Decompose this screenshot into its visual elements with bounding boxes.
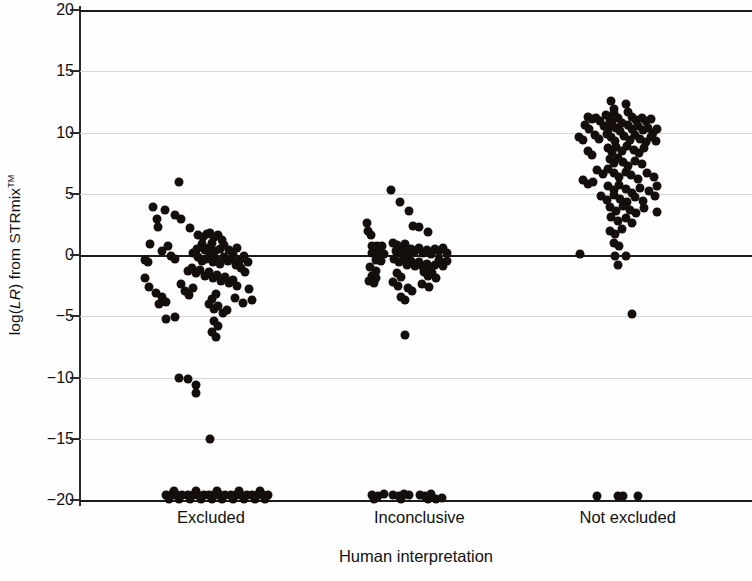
data-point bbox=[239, 298, 248, 307]
x-axis-tick-labels: ExcludedInconclusiveNot excluded bbox=[80, 508, 752, 536]
gridline-15 bbox=[80, 71, 752, 72]
data-point bbox=[652, 182, 661, 191]
data-point bbox=[230, 293, 239, 302]
data-point bbox=[640, 204, 649, 213]
data-point bbox=[437, 493, 446, 502]
data-point bbox=[256, 487, 265, 496]
data-point bbox=[628, 309, 637, 318]
data-point bbox=[171, 313, 180, 322]
data-point bbox=[407, 286, 416, 295]
data-point bbox=[424, 494, 433, 503]
data-point bbox=[621, 252, 630, 261]
data-point bbox=[649, 172, 658, 181]
data-point bbox=[232, 243, 241, 252]
data-point bbox=[153, 222, 162, 231]
data-point bbox=[160, 205, 169, 214]
data-point bbox=[145, 239, 154, 248]
data-point bbox=[578, 135, 587, 144]
data-point bbox=[212, 290, 221, 299]
data-point bbox=[164, 242, 173, 251]
data-point bbox=[379, 489, 388, 498]
data-point bbox=[196, 494, 205, 503]
data-point bbox=[401, 296, 410, 305]
data-point bbox=[637, 160, 646, 169]
data-point bbox=[613, 260, 622, 269]
data-point bbox=[248, 296, 257, 305]
data-point bbox=[245, 285, 254, 294]
data-point bbox=[191, 487, 200, 496]
data-point bbox=[405, 491, 414, 500]
data-point bbox=[175, 177, 184, 186]
data-point bbox=[415, 222, 424, 231]
data-point bbox=[393, 281, 402, 290]
x-tick-label-not-excluded: Not excluded bbox=[580, 508, 676, 527]
data-point bbox=[366, 231, 375, 240]
data-point bbox=[442, 257, 451, 266]
data-point bbox=[370, 494, 379, 503]
data-point bbox=[633, 492, 642, 501]
data-point bbox=[174, 373, 183, 382]
data-point bbox=[239, 494, 248, 503]
gridline--5 bbox=[80, 316, 752, 317]
data-point bbox=[651, 137, 660, 146]
x-tick-label-inconclusive: Inconclusive bbox=[374, 508, 465, 527]
data-point bbox=[377, 257, 386, 266]
data-point bbox=[397, 494, 406, 503]
data-point bbox=[188, 284, 197, 293]
data-point bbox=[424, 227, 433, 236]
data-point bbox=[241, 268, 250, 277]
x-axis-title: Human interpretation bbox=[80, 547, 752, 566]
data-point bbox=[618, 492, 627, 501]
data-point bbox=[405, 206, 414, 215]
data-point bbox=[387, 186, 396, 195]
data-point bbox=[593, 492, 602, 501]
scatter-plot-figure: log(LR) from STRmixTM 20151050−5−10−15−2… bbox=[0, 0, 752, 581]
data-point bbox=[589, 177, 598, 186]
data-point bbox=[234, 487, 243, 496]
gridline--15 bbox=[80, 439, 752, 440]
data-point bbox=[369, 279, 378, 288]
data-point bbox=[651, 192, 660, 201]
data-point bbox=[206, 434, 215, 443]
data-point bbox=[170, 254, 179, 263]
data-point bbox=[213, 487, 222, 496]
data-point bbox=[185, 224, 194, 233]
x-tick-label-excluded: Excluded bbox=[177, 508, 245, 527]
data-point bbox=[614, 242, 623, 251]
data-point bbox=[162, 314, 171, 323]
data-point bbox=[177, 215, 186, 224]
data-point bbox=[143, 258, 152, 267]
data-point bbox=[640, 144, 649, 153]
data-point bbox=[170, 487, 179, 496]
data-point bbox=[652, 124, 661, 133]
data-point bbox=[218, 494, 227, 503]
data-point bbox=[588, 150, 597, 159]
data-point bbox=[617, 225, 626, 234]
data-point bbox=[175, 494, 184, 503]
data-point bbox=[425, 282, 434, 291]
data-point bbox=[148, 203, 157, 212]
data-point bbox=[575, 249, 584, 258]
data-point bbox=[395, 198, 404, 207]
data-point bbox=[223, 306, 232, 315]
data-point bbox=[261, 494, 270, 503]
data-point bbox=[155, 300, 164, 309]
data-point bbox=[211, 333, 220, 342]
data-point bbox=[400, 330, 409, 339]
data-point bbox=[628, 219, 637, 228]
data-point bbox=[652, 208, 661, 217]
data-point bbox=[432, 274, 441, 283]
data-point bbox=[191, 389, 200, 398]
data-point bbox=[233, 281, 242, 290]
gridline-20 bbox=[80, 10, 752, 12]
plot-area bbox=[80, 10, 752, 500]
